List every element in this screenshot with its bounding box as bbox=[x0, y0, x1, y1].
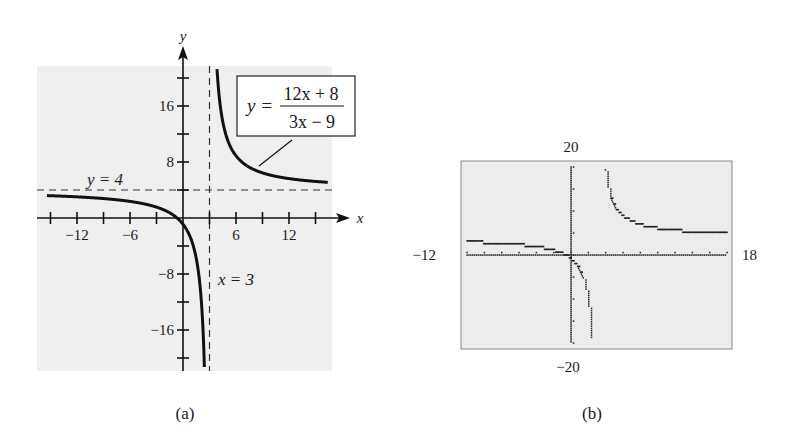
horizontal-asymptote-label: y = 4 bbox=[85, 170, 124, 189]
x-axis-pixel bbox=[660, 254, 662, 256]
plot-pixel bbox=[591, 314, 593, 316]
x-tick-pixel bbox=[588, 252, 590, 254]
y-tick-pixel bbox=[573, 188, 575, 190]
x-axis-pixel bbox=[704, 254, 706, 256]
x-axis-pixel bbox=[679, 254, 681, 256]
y-axis-pixel bbox=[570, 221, 572, 223]
y-axis-pixel bbox=[570, 297, 572, 299]
y-axis-pixel bbox=[570, 182, 572, 184]
y-tick-pixel bbox=[573, 254, 575, 256]
x-axis-pixel bbox=[596, 254, 598, 256]
x-axis-pixel bbox=[594, 254, 596, 256]
y-axis-pixel bbox=[570, 316, 572, 318]
x-axis-pixel bbox=[710, 254, 712, 256]
y-axis-label: y bbox=[178, 28, 187, 44]
x-axis-pixel bbox=[649, 254, 651, 256]
x-axis-pixel bbox=[580, 254, 582, 256]
y-tick-label: −16 bbox=[151, 322, 175, 338]
x-axis-pixel bbox=[668, 254, 670, 256]
plot-pixel bbox=[588, 303, 590, 305]
plot-pixel bbox=[581, 273, 583, 275]
plot-pixel bbox=[681, 229, 683, 231]
y-axis-pixel bbox=[570, 299, 572, 301]
x-axis-pixel bbox=[632, 254, 634, 256]
x-axis-pixel bbox=[539, 254, 541, 256]
y-axis-pixel bbox=[570, 166, 572, 168]
plot-pixel bbox=[543, 246, 545, 248]
x-tick-pixel bbox=[657, 252, 659, 254]
x-axis-pixel bbox=[603, 254, 605, 256]
plot-pixel bbox=[615, 203, 617, 205]
x-axis-pixel bbox=[540, 254, 542, 256]
x-axis-pixel bbox=[685, 254, 687, 256]
plot-pixel bbox=[591, 337, 593, 339]
x-axis-pixel bbox=[552, 254, 554, 256]
plot-pixel bbox=[568, 254, 570, 256]
y-axis-pixel bbox=[570, 275, 572, 277]
x-axis-pixel bbox=[597, 254, 599, 256]
x-axis-pixel bbox=[520, 254, 522, 256]
x-axis-pixel bbox=[723, 254, 725, 256]
plot-pixel bbox=[591, 323, 593, 325]
x-axis-pixel bbox=[611, 254, 613, 256]
y-axis-pixel bbox=[570, 235, 572, 237]
x-tick-pixel bbox=[640, 252, 642, 254]
x-axis-pixel bbox=[518, 254, 520, 256]
plot-pixel bbox=[582, 271, 584, 273]
plot-pixel bbox=[607, 182, 609, 184]
x-axis-pixel bbox=[681, 254, 683, 256]
x-axis-pixel bbox=[711, 254, 713, 256]
x-tick-pixel bbox=[518, 252, 520, 254]
x-axis-pixel bbox=[675, 254, 677, 256]
x-axis-pixel bbox=[468, 254, 470, 256]
x-axis-pixel bbox=[708, 254, 710, 256]
y-axis-pixel bbox=[570, 191, 572, 193]
x-axis-pixel bbox=[658, 254, 660, 256]
x-axis-pixel bbox=[592, 254, 594, 256]
x-axis-pixel bbox=[586, 254, 588, 256]
y-axis-pixel bbox=[570, 237, 572, 239]
y-axis-pixel bbox=[570, 168, 572, 170]
x-axis-pixel bbox=[535, 254, 537, 256]
y-axis-pixel bbox=[570, 223, 572, 225]
x-axis-pixel bbox=[622, 254, 624, 256]
y-axis-pixel bbox=[570, 244, 572, 246]
plot-pixel bbox=[607, 184, 609, 186]
plot-pixel bbox=[591, 328, 593, 330]
x-axis-pixel bbox=[683, 254, 685, 256]
x-axis-pixel bbox=[725, 254, 727, 256]
y-axis-pixel bbox=[570, 250, 572, 252]
x-axis-pixel bbox=[556, 254, 558, 256]
x-axis-pixel bbox=[719, 254, 721, 256]
plot-pixel bbox=[591, 310, 593, 312]
y-tick-label: −8 bbox=[158, 266, 174, 282]
plot-pixel bbox=[588, 290, 590, 292]
y-axis-pixel bbox=[570, 256, 572, 258]
plot-pixel bbox=[582, 275, 584, 277]
plot-pixel bbox=[610, 188, 612, 190]
y-axis-pixel bbox=[570, 216, 572, 218]
y-axis-pixel bbox=[570, 206, 572, 208]
x-tick-pixel bbox=[553, 252, 555, 254]
y-axis-pixel bbox=[570, 208, 572, 210]
x-axis-pixel bbox=[542, 254, 544, 256]
y-axis-pixel bbox=[570, 337, 572, 339]
y-axis-pixel bbox=[570, 261, 572, 263]
y-axis-pixel bbox=[570, 214, 572, 216]
y-axis-pixel bbox=[570, 265, 572, 267]
y-axis-pixel bbox=[570, 330, 572, 332]
y-axis-pixel bbox=[570, 201, 572, 203]
x-axis-pixel bbox=[491, 254, 493, 256]
y-axis-pixel bbox=[570, 212, 572, 214]
y-axis-pixel bbox=[570, 278, 572, 280]
x-axis-pixel bbox=[554, 254, 556, 256]
y-axis-pixel bbox=[570, 242, 572, 244]
x-axis-pixel bbox=[616, 254, 618, 256]
plot-pixel bbox=[607, 173, 609, 175]
x-tick-pixel bbox=[536, 252, 538, 254]
vertical-asymptote-label: x = 3 bbox=[217, 270, 254, 289]
y-axis-pixel bbox=[570, 187, 572, 189]
x-axis-pixel bbox=[525, 254, 527, 256]
y-axis-pixel bbox=[570, 254, 572, 256]
y-tick-pixel bbox=[573, 320, 575, 322]
